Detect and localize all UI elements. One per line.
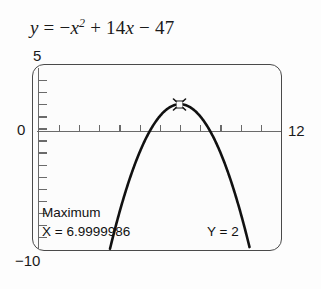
equation-term3-constant: 47 xyxy=(155,17,174,38)
equation-term2-coefficient: 14 xyxy=(106,17,125,38)
calculator-screen: Maximum X = 6.9999986 Y = 2 xyxy=(32,64,282,251)
equation-term2-sign: + xyxy=(90,17,101,38)
plot-area: Maximum X = 6.9999986 Y = 2 xyxy=(33,65,283,252)
equation-term1-var: x xyxy=(70,17,79,38)
trace-mode-label: Maximum xyxy=(42,205,101,220)
axis-label-y-min: −10 xyxy=(15,252,40,269)
equation-term3-sign: − xyxy=(139,17,150,38)
trace-cursor-icon xyxy=(172,98,187,111)
axis-label-x-max: 12 xyxy=(288,122,305,139)
equation-lhs: y xyxy=(30,17,39,38)
equation-term2-var: x xyxy=(125,17,134,38)
equation-equals: = xyxy=(44,17,55,38)
axis-label-y-max: 5 xyxy=(33,47,41,64)
trace-x-value: X = 6.9999986 xyxy=(42,224,130,239)
equation-term1-sign: − xyxy=(59,17,70,38)
trace-y-value: Y = 2 xyxy=(207,224,239,239)
equation-caption: y = −x2 + 14x − 47 xyxy=(30,16,174,39)
calculator-figure: y = −x2 + 14x − 47 5 0 12 −10 Maximum X xyxy=(0,0,321,289)
axis-label-x-min: 0 xyxy=(17,121,25,138)
